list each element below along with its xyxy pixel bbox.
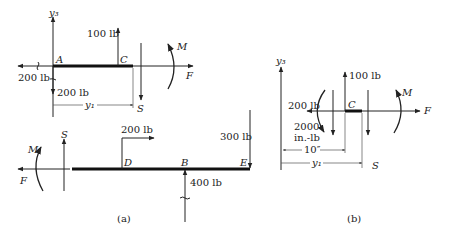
force-a-left-label: 200 lb xyxy=(18,72,50,83)
force-d-label: 200 lb xyxy=(121,124,153,135)
moment-value-line1: 2000 xyxy=(294,121,319,132)
moment-value-line2: in.-lb xyxy=(294,132,320,143)
point-a-label: A xyxy=(55,54,63,65)
y3-axis-label: y₃ xyxy=(48,7,59,18)
moment-m-label: M xyxy=(27,144,39,155)
diagram-a-top: y₃ A C 200 lb 200 lb 100 lb S M F y₁ xyxy=(18,7,194,117)
point-c-label: C xyxy=(348,99,356,110)
force-a-down-label: 200 lb xyxy=(57,87,89,98)
force-c-up-label: 100 lb xyxy=(87,28,119,39)
point-d-label: D xyxy=(123,157,132,168)
point-c-label: C xyxy=(120,54,128,65)
shear-s-label: S xyxy=(372,160,379,171)
point-e-label: E xyxy=(239,157,248,168)
caption-a: (a) xyxy=(117,213,131,224)
free-body-diagrams: y₃ A C 200 lb 200 lb 100 lb S M F y₁ xyxy=(0,0,450,236)
axial-f-label: F xyxy=(423,105,432,116)
force-b-label: 400 lb xyxy=(190,177,222,188)
axial-f-label: F xyxy=(19,175,28,186)
force-c-up-label: 100 lb xyxy=(349,70,381,81)
dimension-y1-label: y₁ xyxy=(311,157,322,168)
dimension-y1-label: y₁ xyxy=(84,99,95,110)
moment-m-label: M xyxy=(176,41,188,52)
shear-s-label: S xyxy=(137,103,144,114)
moment-m-label: M xyxy=(401,87,413,98)
y3-axis-label: y₃ xyxy=(275,55,286,66)
diagram-a-bottom: F M S D B E 200 lb 400 lb 300 lb (a) xyxy=(18,110,252,224)
force-e-label: 300 lb xyxy=(220,131,252,142)
diagram-b: y₃ 200 lb F C 100 lb 2000 in.-lb M 10″ y… xyxy=(275,55,432,224)
caption-b: (b) xyxy=(347,213,361,224)
dimension-10-label: 10″ xyxy=(304,144,321,155)
force-left-label: 200 lb xyxy=(288,100,320,111)
axial-f-label: F xyxy=(185,70,194,81)
point-b-label: B xyxy=(180,157,188,168)
shear-s-label: S xyxy=(61,129,68,140)
